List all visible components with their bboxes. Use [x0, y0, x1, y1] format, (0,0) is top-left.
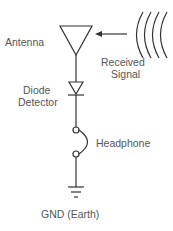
schematic: [0, 0, 173, 231]
ground-symbol: [68, 187, 84, 197]
diode-symbol: [68, 82, 84, 95]
diode-label-2: Detector: [18, 96, 58, 108]
headphone-label: Headphone: [96, 137, 150, 149]
antenna-label: Antenna: [5, 36, 44, 48]
headphone-symbol: [73, 127, 88, 157]
ground-label: GND (Earth): [41, 208, 99, 220]
received-label-1: Received: [101, 56, 145, 68]
received-label-2: Signal: [111, 68, 140, 80]
diode-label-1: Diode: [23, 84, 50, 96]
antenna-symbol: [60, 26, 92, 55]
crystal-radio-diagram: Antenna Received Signal Diode Detector H…: [0, 0, 173, 231]
radio-waves-icon: [137, 12, 168, 58]
